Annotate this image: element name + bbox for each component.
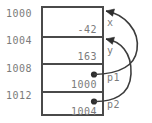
cell-value-1000: -42 — [77, 24, 97, 35]
variable-label-p2: p2 — [107, 99, 120, 110]
cell-value-1012: 1004 — [71, 106, 97, 117]
cell-value-1004: 163 — [77, 51, 97, 62]
cell-value-1008: 1000 — [71, 79, 97, 90]
pointer-arrowhead-p2 — [106, 37, 115, 44]
address-label-1000: 1000 — [6, 8, 40, 19]
memory-pointer-diagram: 1000 1004 1008 1012 -42 163 1000 1004 x … — [0, 0, 152, 123]
memory-cell-1000: -42 — [43, 8, 102, 36]
address-label-1012: 1012 — [6, 90, 40, 101]
address-label-1004: 1004 — [6, 35, 40, 46]
memory-cell-1004: 163 — [43, 36, 102, 64]
variable-label-y: y — [107, 45, 114, 56]
memory-table: -42 163 1000 1004 — [41, 6, 104, 116]
variable-label-p1: p1 — [107, 72, 120, 83]
pointer-arrowhead-p1 — [106, 9, 115, 16]
memory-cell-1008: 1000 — [43, 63, 102, 91]
address-label-1008: 1008 — [6, 63, 40, 74]
variable-label-x: x — [107, 17, 114, 28]
memory-cell-1012: 1004 — [43, 91, 102, 119]
